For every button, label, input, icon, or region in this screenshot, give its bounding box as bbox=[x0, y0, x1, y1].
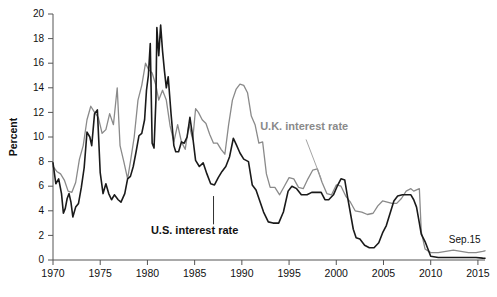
x-axis: 1970197519801985199019952000200520102015 bbox=[41, 260, 489, 279]
x-axis-tick-label: 1990 bbox=[230, 267, 254, 279]
x-axis-tick-label: 2010 bbox=[419, 267, 443, 279]
y-axis-tick-label: 8 bbox=[38, 156, 44, 167]
y-axis-tick-label: 10 bbox=[33, 131, 45, 142]
x-axis-tick-label: 1995 bbox=[277, 267, 301, 279]
y-axis-title: Percent bbox=[7, 117, 19, 156]
y-axis-tick-label: 20 bbox=[33, 8, 45, 19]
us-interest-rate-line bbox=[53, 25, 485, 258]
y-axis-tick-label: 6 bbox=[38, 180, 44, 191]
end-date-label: Sep.15 bbox=[449, 234, 481, 245]
y-axis-tick-label: 12 bbox=[33, 107, 45, 118]
x-axis-tick-label: 1970 bbox=[41, 267, 65, 279]
y-axis-tick-label: 18 bbox=[33, 33, 45, 44]
us-series-label: U.S. interest rate bbox=[151, 224, 238, 236]
y-axis-tick-label: 4 bbox=[38, 205, 44, 216]
annotations-group: U.S. interest rateU.K. interest rateSep.… bbox=[151, 120, 481, 246]
y-axis-tick-label: 16 bbox=[33, 57, 45, 68]
interest-rate-chart: 02468101214161820 1970197519801985199019… bbox=[0, 0, 497, 297]
x-axis-tick-label: 1975 bbox=[89, 267, 113, 279]
x-axis-tick-label: 2005 bbox=[372, 267, 396, 279]
x-axis-tick-label: 2000 bbox=[325, 267, 349, 279]
x-axis-tick-label: 1980 bbox=[136, 267, 160, 279]
y-axis-tick-label: 0 bbox=[38, 254, 44, 265]
uk-label-leader-line bbox=[306, 139, 321, 178]
y-axis-tick-label: 14 bbox=[33, 82, 45, 93]
data-series-group bbox=[53, 25, 485, 258]
y-axis: 02468101214161820 bbox=[33, 8, 53, 265]
uk-series-label: U.K. interest rate bbox=[260, 120, 348, 132]
y-axis-tick-label: 2 bbox=[38, 230, 44, 241]
chart-plot-area: 02468101214161820 1970197519801985199019… bbox=[0, 0, 497, 297]
x-axis-tick-label: 2015 bbox=[466, 267, 490, 279]
x-axis-tick-label: 1985 bbox=[183, 267, 207, 279]
